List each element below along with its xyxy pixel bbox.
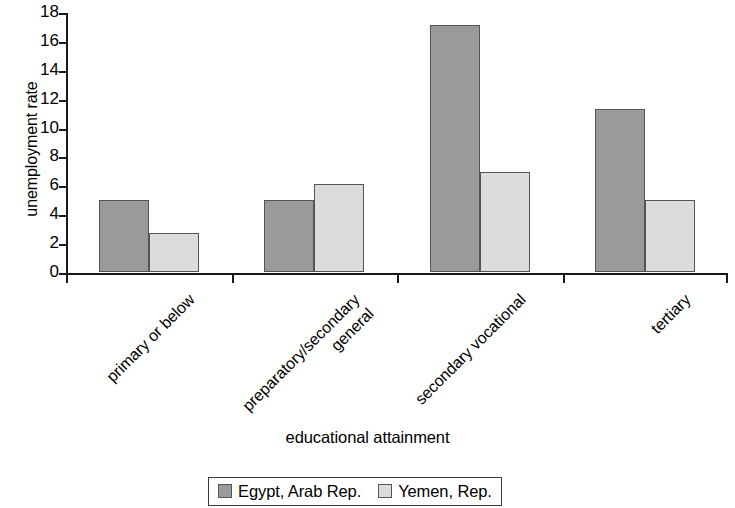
y-axis-tick-mark xyxy=(59,215,66,217)
y-axis-tick-label: 4 xyxy=(50,204,59,224)
y-axis-tick-label: 14 xyxy=(40,60,59,80)
y-axis-line xyxy=(66,13,68,275)
y-axis-tick-mark xyxy=(59,186,66,188)
y-axis-tick-label: 8 xyxy=(50,146,59,166)
x-axis-tick-mark xyxy=(563,274,565,283)
unemployment-rate-bar-chart: unemployment rate 024681012141618 primar… xyxy=(0,0,735,508)
y-axis-tick-mark xyxy=(59,244,66,246)
legend-label: Egypt, Arab Rep. xyxy=(238,482,361,501)
x-axis-tick-mark xyxy=(726,274,728,283)
y-axis-tick-label: 12 xyxy=(40,89,59,109)
y-axis-tick-mark xyxy=(59,13,66,15)
y-axis-tick-mark xyxy=(59,273,66,275)
bar xyxy=(595,109,645,272)
legend-swatch-icon xyxy=(218,484,232,498)
y-axis-tick-mark xyxy=(59,42,66,44)
plot-area: 024681012141618 xyxy=(66,13,728,274)
x-axis-tick-mark xyxy=(232,274,234,283)
bar xyxy=(314,184,364,272)
x-axis-title: educational attainment xyxy=(0,428,735,447)
y-axis-tick-mark xyxy=(59,157,66,159)
legend-item: Yemen, Rep. xyxy=(378,482,492,501)
y-axis-title: unemployment rate xyxy=(23,49,41,249)
y-axis-tick-label: 18 xyxy=(40,2,59,22)
y-axis-tick-label: 16 xyxy=(40,31,59,51)
legend-item: Egypt, Arab Rep. xyxy=(218,482,361,501)
legend-swatch-icon xyxy=(378,484,392,498)
y-axis-tick-mark xyxy=(59,71,66,73)
legend: Egypt, Arab Rep.Yemen, Rep. xyxy=(208,477,502,506)
y-axis-tick-label: 6 xyxy=(50,175,59,195)
bar xyxy=(430,25,480,272)
bar xyxy=(645,200,695,272)
bar xyxy=(480,172,530,272)
y-axis-tick-label: 0 xyxy=(50,262,59,282)
y-axis-tick-mark xyxy=(59,100,66,102)
bar xyxy=(149,233,199,272)
x-axis-category-label: primary or below xyxy=(1,290,199,488)
x-axis-tick-mark xyxy=(397,274,399,283)
x-axis-category-label: tertiary xyxy=(497,290,695,488)
x-axis-tick-mark xyxy=(66,274,68,283)
y-axis-tick-mark xyxy=(59,129,66,131)
y-axis-tick-label: 2 xyxy=(50,233,59,253)
legend-label: Yemen, Rep. xyxy=(398,482,492,501)
bar xyxy=(264,200,314,272)
bar xyxy=(99,200,149,272)
y-axis-tick-label: 10 xyxy=(40,118,59,138)
